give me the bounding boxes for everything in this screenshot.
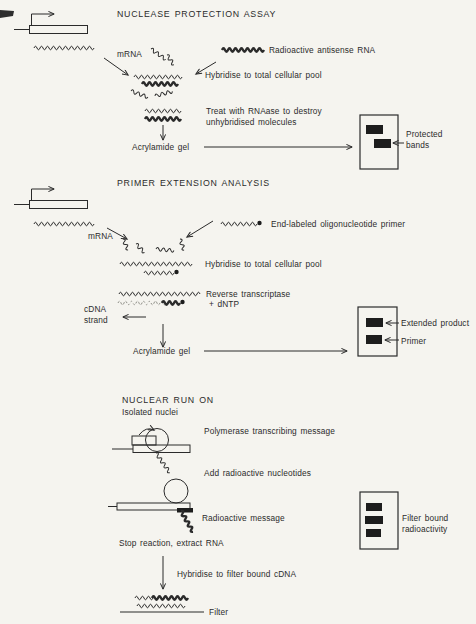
duplex-top-wave-icon xyxy=(145,109,181,113)
filter-band xyxy=(366,503,382,511)
primer-label: End-labeled oligonucleotide primer xyxy=(271,219,405,229)
primer-wave-icon xyxy=(144,271,174,275)
rna-fragment-wave-icon xyxy=(135,243,146,254)
radiolabel-dot-icon xyxy=(174,270,178,274)
gel-band xyxy=(366,318,383,327)
polymerase-label: Polymerase transcribing message xyxy=(204,426,335,436)
end-labeled-primer-icon xyxy=(221,221,262,226)
hybridise-label: Hybridise to total cellular pool xyxy=(205,259,322,269)
panel2-title: PRIMER EXTENSION ANALYSIS xyxy=(117,178,270,188)
annealed-primer-icon xyxy=(144,270,179,275)
cdna-label-line1: cDNA xyxy=(84,304,106,314)
hybrid-probe-wave-icon xyxy=(142,82,178,86)
cdna-growing-wave-icon xyxy=(118,301,166,305)
radiolabel-dot-icon xyxy=(180,300,184,304)
rna-fragment-wave-icon xyxy=(121,238,129,250)
nascent-rna-wave-icon xyxy=(155,452,172,474)
primer-to-pool-arrow-icon xyxy=(187,221,213,237)
filter-label: Filter xyxy=(209,607,228,617)
gene-bar xyxy=(133,445,190,453)
mrna-to-pool-arrow-icon xyxy=(104,58,128,75)
hybridisation-pool-icon xyxy=(121,238,185,253)
rna-fragment-wave-icon xyxy=(156,247,174,252)
gel-band xyxy=(366,335,382,344)
extending-cdna-icon xyxy=(118,300,185,305)
isolated-nuclei-label: Isolated nuclei xyxy=(122,407,178,417)
panel1-title: NUCLEASE PROTECTION ASSAY xyxy=(117,9,276,19)
scanned-figure-page: NUCLEASE PROTECTION ASSAY mRNA Radioacti… xyxy=(0,0,476,624)
rna-fragment-wave-icon xyxy=(178,238,185,250)
transcription-start-arrow-icon xyxy=(32,14,55,26)
mrna-wave-icon xyxy=(34,222,94,226)
stop-reaction-label: Stop reaction, extract RNA xyxy=(119,538,224,548)
mrna-template-wave-icon xyxy=(120,262,192,266)
radioactive-message-label: Radioactive message xyxy=(202,513,285,523)
dntp-label: + dNTP xyxy=(209,299,240,309)
filter-band xyxy=(365,516,383,524)
gene-box xyxy=(30,26,88,34)
filter-bound-label-line1: Filter bound xyxy=(402,513,449,523)
gel-box-primer-extension xyxy=(358,307,399,356)
polymerase-radioactive-icon xyxy=(108,479,195,533)
add-nucleotides-label: Add radioactive nucleotides xyxy=(204,468,311,478)
rna-fragment-wave-icon xyxy=(166,54,176,66)
polymerase-on-gene-icon xyxy=(112,429,190,474)
figure-canvas: NUCLEASE PROTECTION ASSAY mRNA Radioacti… xyxy=(0,0,476,624)
antisense-rna-wave-icon xyxy=(222,48,264,52)
primer-wave-icon xyxy=(162,301,180,305)
labeled-segment xyxy=(177,508,193,513)
protected-label-line1: Protected xyxy=(406,129,443,139)
gel-label: Acrylamide gel xyxy=(133,346,190,356)
nuclear-run-on-panel: NUCLEAR RUN ON Isolated nuclei Polymeras… xyxy=(108,395,449,617)
rna-fragment-wave-icon xyxy=(130,89,148,98)
antisense-label: Radioactive antisense RNA xyxy=(269,45,376,55)
rna-fragment-wave-icon xyxy=(155,90,173,98)
primer-band-label: Primer xyxy=(401,336,426,346)
gel-label: Acrylamide gel xyxy=(132,142,189,152)
primer-wave-icon xyxy=(221,222,257,226)
mrna-template-wave-icon xyxy=(119,292,200,296)
gel-lane-box xyxy=(358,307,397,356)
filter-box-radioactivity xyxy=(360,492,398,549)
hybridise-label: Hybridise to total cellular pool xyxy=(205,70,322,80)
hybridise-filter-label: Hybridise to filter bound cDNA xyxy=(177,569,296,579)
promoter-box xyxy=(132,436,156,445)
mrna-wave-icon xyxy=(34,46,94,50)
protected-duplex-icon xyxy=(145,109,181,121)
mrna-wave-icon xyxy=(134,75,182,79)
gene-diagram-icon xyxy=(14,189,88,209)
filter-bound-label-line2: radioactivity xyxy=(402,524,448,534)
cdna-wave-icon xyxy=(137,604,185,608)
gel-box-protected xyxy=(360,115,404,169)
panel3-title: NUCLEAR RUN ON xyxy=(122,395,214,405)
transcription-start-arrow-icon xyxy=(32,189,55,201)
radioactive-rna-wave-icon xyxy=(179,510,194,533)
primer-extension-panel: PRIMER EXTENSION ANALYSIS mRNA End-label… xyxy=(14,178,470,356)
nuclease-protection-panel: NUCLEASE PROTECTION ASSAY mRNA Radioacti… xyxy=(14,9,443,169)
protected-label-line2: bands xyxy=(406,140,429,150)
treat-label-line2: unhybridised molecules xyxy=(206,117,296,127)
scan-edge-mark xyxy=(0,10,14,18)
gene-box xyxy=(30,201,88,209)
filter-hybrid-icon xyxy=(120,596,204,612)
treat-label-line1: Treat with RNAase to destroy xyxy=(206,106,323,116)
rna-fragment-wave-icon xyxy=(150,48,167,61)
polymerase-circle-icon xyxy=(146,429,169,452)
filter-band xyxy=(366,529,381,537)
rna-wave-icon xyxy=(135,596,153,600)
gel-band xyxy=(374,139,391,148)
gene-diagram-icon xyxy=(14,14,88,34)
reverse-transcriptase-label: Reverse transcriptase xyxy=(206,289,291,299)
extended-product-label: Extended product xyxy=(401,318,470,328)
radioactive-rna-wave-icon xyxy=(152,596,188,600)
gel-band xyxy=(366,125,383,134)
mrna-label: mRNA xyxy=(117,49,142,59)
mrna-label: mRNA xyxy=(88,231,113,241)
duplex-bottom-wave-icon xyxy=(145,117,181,121)
cdna-label-line2: strand xyxy=(84,315,108,325)
radiolabel-dot-icon xyxy=(257,221,261,225)
polymerase-circle-icon xyxy=(164,479,188,503)
